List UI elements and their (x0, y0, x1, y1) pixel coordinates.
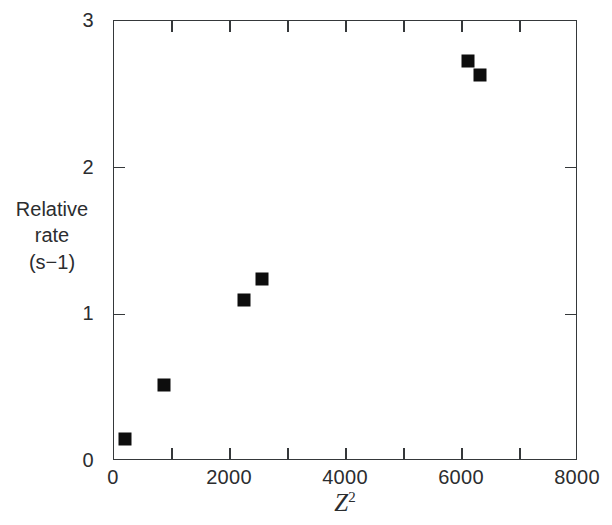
x-tick-bottom-3000 (287, 448, 289, 459)
data-point-4 (461, 54, 474, 67)
x-tick-bottom-1000 (171, 448, 173, 459)
x-tick-top-1000 (171, 21, 173, 32)
y-tick-right-2 (565, 167, 576, 169)
x-tick-label-8000: 8000 (554, 466, 600, 489)
x-tick-top-5000 (403, 21, 405, 32)
x-tick-label-4000: 4000 (322, 466, 368, 489)
x-tick-bottom-5000 (403, 448, 405, 459)
y-tick-label-0: 0 (83, 449, 94, 472)
data-point-2 (237, 293, 250, 306)
x-tick-top-4000 (345, 21, 347, 32)
x-tick-label-0: 0 (107, 466, 118, 489)
y-axis-title: Relative rate (s−1) (0, 196, 104, 275)
data-point-0 (119, 433, 132, 446)
x-tick-top-7000 (519, 21, 521, 32)
y-axis-title-line-2: rate (0, 222, 104, 248)
x-tick-bottom-7000 (519, 448, 521, 459)
x-axis-title: Z2 (113, 489, 577, 517)
x-tick-bottom-2000 (229, 448, 231, 459)
x-tick-top-6000 (461, 21, 463, 32)
y-tick-label-1: 1 (83, 302, 94, 325)
x-tick-bottom-6000 (461, 448, 463, 459)
data-point-3 (255, 273, 268, 286)
x-axis-title-base: Z (334, 489, 348, 516)
data-point-1 (157, 378, 170, 391)
y-tick-right-1 (565, 314, 576, 316)
y-tick-left-1 (114, 314, 125, 316)
x-axis-title-exponent: 2 (348, 489, 356, 505)
data-point-5 (473, 69, 486, 82)
x-tick-bottom-4000 (345, 448, 347, 459)
x-tick-label-2000: 2000 (206, 466, 252, 489)
x-tick-top-3000 (287, 21, 289, 32)
y-tick-label-3: 3 (83, 9, 94, 32)
x-tick-top-2000 (229, 21, 231, 32)
x-tick-label-6000: 6000 (438, 466, 484, 489)
y-tick-label-2: 2 (83, 155, 94, 178)
y-axis-title-line-3: (s−1) (0, 249, 104, 275)
y-tick-left-2 (114, 167, 125, 169)
plot-area (113, 20, 577, 460)
scatter-chart-figure: Relative rate (s−1) Z2 02000400060008000… (0, 0, 612, 525)
y-axis-title-line-1: Relative (0, 196, 104, 222)
